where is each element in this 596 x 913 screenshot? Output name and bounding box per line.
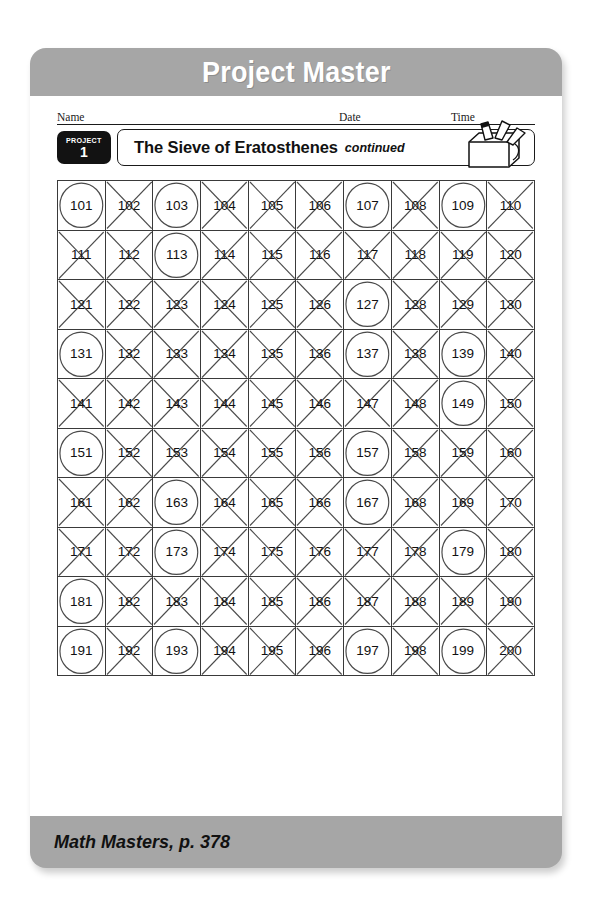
sieve-cell[interactable]: 136 xyxy=(296,329,344,379)
sieve-cell[interactable]: 156 xyxy=(296,428,344,478)
sieve-cell[interactable]: 117 xyxy=(344,230,392,280)
sieve-cell[interactable]: 132 xyxy=(105,329,153,379)
sieve-cell[interactable]: 163 xyxy=(153,478,201,528)
sieve-cell[interactable]: 114 xyxy=(201,230,249,280)
sieve-cell[interactable]: 169 xyxy=(439,478,487,528)
sieve-cell[interactable]: 116 xyxy=(296,230,344,280)
sieve-cell[interactable]: 168 xyxy=(391,478,439,528)
sieve-cell[interactable]: 186 xyxy=(296,577,344,627)
sieve-cell[interactable]: 105 xyxy=(248,181,296,231)
sieve-cell[interactable]: 155 xyxy=(248,428,296,478)
sieve-cell[interactable]: 152 xyxy=(105,428,153,478)
sieve-cell[interactable]: 170 xyxy=(487,478,535,528)
sieve-cell[interactable]: 150 xyxy=(487,379,535,429)
sieve-cell[interactable]: 121 xyxy=(58,280,106,330)
sieve-cell[interactable]: 193 xyxy=(153,626,201,676)
sieve-cell[interactable]: 125 xyxy=(248,280,296,330)
sieve-cell[interactable]: 133 xyxy=(153,329,201,379)
sieve-cell[interactable]: 111 xyxy=(58,230,106,280)
sieve-cell[interactable]: 198 xyxy=(391,626,439,676)
sieve-cell[interactable]: 171 xyxy=(58,527,106,577)
sieve-cell[interactable]: 176 xyxy=(296,527,344,577)
sieve-cell[interactable]: 127 xyxy=(344,280,392,330)
sieve-cell[interactable]: 144 xyxy=(201,379,249,429)
sieve-cell[interactable]: 145 xyxy=(248,379,296,429)
sieve-cell[interactable]: 102 xyxy=(105,181,153,231)
sieve-cell[interactable]: 112 xyxy=(105,230,153,280)
sieve-cell[interactable]: 159 xyxy=(439,428,487,478)
sieve-cell[interactable]: 166 xyxy=(296,478,344,528)
sieve-cell[interactable]: 137 xyxy=(344,329,392,379)
sieve-cell[interactable]: 149 xyxy=(439,379,487,429)
sieve-cell[interactable]: 188 xyxy=(391,577,439,627)
sieve-cell[interactable]: 160 xyxy=(487,428,535,478)
sieve-cell[interactable]: 119 xyxy=(439,230,487,280)
sieve-cell[interactable]: 134 xyxy=(201,329,249,379)
sieve-cell[interactable]: 122 xyxy=(105,280,153,330)
sieve-cell[interactable]: 173 xyxy=(153,527,201,577)
sieve-cell[interactable]: 118 xyxy=(391,230,439,280)
sieve-cell[interactable]: 174 xyxy=(201,527,249,577)
sieve-cell[interactable]: 101 xyxy=(58,181,106,231)
sieve-cell[interactable]: 142 xyxy=(105,379,153,429)
sieve-cell[interactable]: 196 xyxy=(296,626,344,676)
sieve-cell[interactable]: 148 xyxy=(391,379,439,429)
sieve-cell[interactable]: 178 xyxy=(391,527,439,577)
sieve-cell[interactable]: 107 xyxy=(344,181,392,231)
sieve-cell[interactable]: 167 xyxy=(344,478,392,528)
sieve-cell[interactable]: 115 xyxy=(248,230,296,280)
sieve-cell[interactable]: 165 xyxy=(248,478,296,528)
sieve-cell[interactable]: 135 xyxy=(248,329,296,379)
sieve-cell[interactable]: 126 xyxy=(296,280,344,330)
sieve-cell[interactable]: 110 xyxy=(487,181,535,231)
sieve-cell[interactable]: 113 xyxy=(153,230,201,280)
sieve-cell[interactable]: 164 xyxy=(201,478,249,528)
sieve-cell[interactable]: 120 xyxy=(487,230,535,280)
sieve-cell[interactable]: 194 xyxy=(201,626,249,676)
sieve-cell[interactable]: 146 xyxy=(296,379,344,429)
sieve-cell[interactable]: 185 xyxy=(248,577,296,627)
sieve-cell[interactable]: 199 xyxy=(439,626,487,676)
sieve-cell[interactable]: 182 xyxy=(105,577,153,627)
sieve-cell[interactable]: 140 xyxy=(487,329,535,379)
sieve-cell[interactable]: 184 xyxy=(201,577,249,627)
sieve-cell[interactable]: 172 xyxy=(105,527,153,577)
sieve-cell[interactable]: 154 xyxy=(201,428,249,478)
sieve-cell[interactable]: 106 xyxy=(296,181,344,231)
sieve-cell[interactable]: 179 xyxy=(439,527,487,577)
sieve-cell[interactable]: 131 xyxy=(58,329,106,379)
sieve-cell[interactable]: 138 xyxy=(391,329,439,379)
sieve-cell[interactable]: 153 xyxy=(153,428,201,478)
sieve-cell[interactable]: 143 xyxy=(153,379,201,429)
time-field[interactable]: Time xyxy=(451,105,535,125)
sieve-cell[interactable]: 104 xyxy=(201,181,249,231)
sieve-cell[interactable]: 189 xyxy=(439,577,487,627)
sieve-cell[interactable]: 192 xyxy=(105,626,153,676)
sieve-cell[interactable]: 108 xyxy=(391,181,439,231)
sieve-cell[interactable]: 147 xyxy=(344,379,392,429)
sieve-cell[interactable]: 109 xyxy=(439,181,487,231)
sieve-cell[interactable]: 124 xyxy=(201,280,249,330)
sieve-cell[interactable]: 161 xyxy=(58,478,106,528)
date-field[interactable]: Date xyxy=(339,105,451,125)
sieve-cell[interactable]: 139 xyxy=(439,329,487,379)
sieve-cell[interactable]: 187 xyxy=(344,577,392,627)
sieve-cell[interactable]: 197 xyxy=(344,626,392,676)
sieve-cell[interactable]: 130 xyxy=(487,280,535,330)
sieve-cell[interactable]: 175 xyxy=(248,527,296,577)
sieve-cell[interactable]: 183 xyxy=(153,577,201,627)
sieve-cell[interactable]: 128 xyxy=(391,280,439,330)
sieve-cell[interactable]: 181 xyxy=(58,577,106,627)
sieve-cell[interactable]: 123 xyxy=(153,280,201,330)
sieve-cell[interactable]: 141 xyxy=(58,379,106,429)
sieve-cell[interactable]: 191 xyxy=(58,626,106,676)
sieve-cell[interactable]: 129 xyxy=(439,280,487,330)
sieve-cell[interactable]: 195 xyxy=(248,626,296,676)
sieve-cell[interactable]: 151 xyxy=(58,428,106,478)
sieve-cell[interactable]: 157 xyxy=(344,428,392,478)
sieve-cell[interactable]: 103 xyxy=(153,181,201,231)
sieve-cell[interactable]: 180 xyxy=(487,527,535,577)
sieve-cell[interactable]: 190 xyxy=(487,577,535,627)
sieve-cell[interactable]: 158 xyxy=(391,428,439,478)
sieve-cell[interactable]: 200 xyxy=(487,626,535,676)
